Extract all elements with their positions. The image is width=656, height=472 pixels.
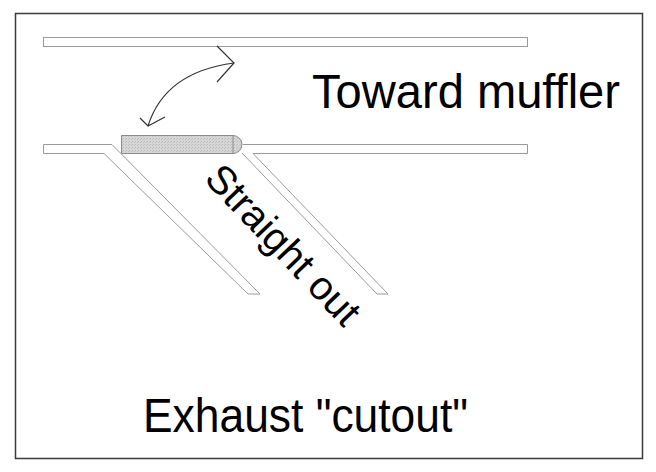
upper-pipe [44, 38, 528, 47]
exhaust-cutout-diagram: Toward muffler Straight out Exhaust "cut… [0, 0, 656, 472]
exhaust-cutout-label: Exhaust "cutout" [143, 389, 468, 442]
damper-valve [122, 136, 243, 154]
toward-muffler-label: Toward muffler [312, 65, 620, 118]
